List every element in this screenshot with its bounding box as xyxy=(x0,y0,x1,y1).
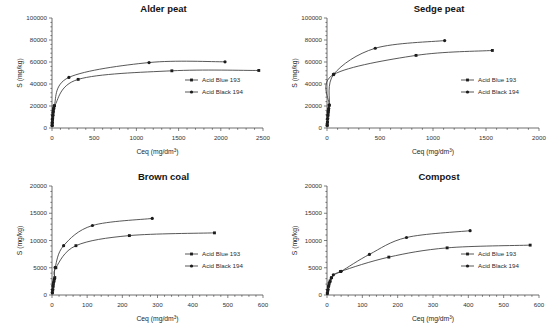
chart-title: Sedge peat xyxy=(414,3,466,14)
legend-label-1: Acid Blue 193 xyxy=(478,76,517,83)
data-point-circle-marker xyxy=(327,110,330,113)
x-tick-label: 2000 xyxy=(532,134,546,141)
data-point-circle-marker xyxy=(326,124,329,127)
data-point-circle-marker xyxy=(374,47,377,50)
y-tick-label: 10000 xyxy=(305,237,323,244)
legend-square-marker xyxy=(466,79,469,82)
data-point-square-marker xyxy=(128,234,131,237)
data-point-circle-marker xyxy=(51,121,54,124)
data-point-circle-marker xyxy=(51,117,54,120)
data-point-circle-marker xyxy=(332,72,335,75)
x-tick-label: 2500 xyxy=(256,134,270,141)
x-tick-label: 500 xyxy=(499,301,510,308)
data-point-circle-marker xyxy=(91,224,94,227)
y-tick-label: 5000 xyxy=(33,264,47,271)
x-tick-label: 200 xyxy=(117,301,128,308)
legend-circle-marker xyxy=(190,90,193,93)
data-point-circle-marker xyxy=(332,273,335,276)
y-tick-label: 15000 xyxy=(30,209,48,216)
data-point-circle-marker xyxy=(327,107,330,110)
chart-panel-brown-coal: Brown coal050001000015000200000100200300… xyxy=(0,168,275,335)
data-point-circle-marker xyxy=(52,280,55,283)
data-point-circle-marker xyxy=(330,276,333,279)
y-axis-label: S (mg/kg) xyxy=(16,58,24,87)
data-point-square-marker xyxy=(257,69,260,72)
chart-panel-compost: Compost050001000015000200000100200300400… xyxy=(275,168,551,335)
series-curve-2 xyxy=(52,218,152,292)
x-tick-label: 500 xyxy=(223,301,234,308)
data-point-circle-marker xyxy=(340,270,343,273)
legend-square-marker xyxy=(190,253,193,256)
x-tick-label: 1000 xyxy=(130,134,144,141)
y-tick-label: 0 xyxy=(319,124,323,131)
y-tick-label: 20000 xyxy=(305,182,323,189)
chart-title: Brown coal xyxy=(138,171,189,182)
data-point-square-marker xyxy=(387,256,390,259)
data-point-circle-marker xyxy=(54,266,57,269)
data-point-square-marker xyxy=(77,78,80,81)
data-point-circle-marker xyxy=(67,76,70,79)
x-axis-label: Ceq (mg/dm3) xyxy=(412,315,454,324)
data-point-square-marker xyxy=(170,69,173,72)
data-point-circle-marker xyxy=(62,244,65,247)
data-point-circle-marker xyxy=(326,291,329,294)
adsorption-isotherm-figure: Alder peat020000400006000080000100000050… xyxy=(0,0,551,335)
y-tick-label: 0 xyxy=(44,124,48,131)
x-tick-label: 500 xyxy=(375,134,386,141)
y-tick-label: 100000 xyxy=(301,14,322,21)
legend-square-marker xyxy=(190,79,193,82)
x-tick-label: 1500 xyxy=(479,134,493,141)
data-point-circle-marker xyxy=(443,39,446,42)
data-point-circle-marker xyxy=(51,288,54,291)
data-point-square-marker xyxy=(491,49,494,52)
x-axis-label: Ceq (mg/dm3) xyxy=(412,148,454,157)
data-point-circle-marker xyxy=(405,236,408,239)
x-tick-label: 300 xyxy=(152,301,163,308)
series-curve-2 xyxy=(52,61,225,125)
x-tick-label: 0 xyxy=(50,134,54,141)
legend-circle-marker xyxy=(190,264,193,267)
series-curve-1 xyxy=(52,233,214,293)
data-point-circle-marker xyxy=(52,104,55,107)
legend-label-1: Acid Blue 193 xyxy=(478,250,517,257)
y-tick-label: 0 xyxy=(319,291,323,298)
y-tick-label: 100000 xyxy=(26,14,47,21)
x-tick-label: 400 xyxy=(463,301,474,308)
y-tick-label: 40000 xyxy=(305,80,323,87)
x-tick-label: 0 xyxy=(325,134,329,141)
data-point-circle-marker xyxy=(147,61,150,64)
data-point-circle-marker xyxy=(328,280,331,283)
data-point-circle-marker xyxy=(368,253,371,256)
legend-square-marker xyxy=(466,253,469,256)
y-tick-label: 5000 xyxy=(308,264,322,271)
data-point-circle-marker xyxy=(51,114,54,117)
y-tick-label: 15000 xyxy=(305,209,323,216)
data-point-circle-marker xyxy=(326,117,329,120)
data-point-square-marker xyxy=(446,246,449,249)
data-point-square-marker xyxy=(529,244,532,247)
x-tick-label: 1000 xyxy=(426,134,440,141)
data-point-square-marker xyxy=(74,244,77,247)
data-point-square-marker xyxy=(415,54,418,57)
y-tick-label: 20000 xyxy=(305,102,323,109)
x-tick-label: 500 xyxy=(89,134,100,141)
y-tick-label: 20000 xyxy=(30,102,48,109)
y-tick-label: 20000 xyxy=(30,182,48,189)
x-tick-label: 600 xyxy=(534,301,545,308)
y-axis-label: S (mg/kg) xyxy=(291,226,299,255)
data-point-circle-marker xyxy=(53,277,56,280)
data-point-circle-marker xyxy=(51,124,54,127)
x-tick-label: 0 xyxy=(50,301,54,308)
y-tick-label: 60000 xyxy=(305,58,323,65)
legend-circle-marker xyxy=(466,90,469,93)
data-point-circle-marker xyxy=(223,60,226,63)
y-tick-label: 60000 xyxy=(30,58,48,65)
series-curve-2 xyxy=(327,231,470,293)
data-point-circle-marker xyxy=(51,284,54,287)
x-tick-label: 100 xyxy=(82,301,93,308)
chart-panel-sedge-peat: Sedge peat020000400006000080000100000050… xyxy=(275,0,551,168)
series-curve-2 xyxy=(327,41,444,126)
y-tick-label: 80000 xyxy=(30,36,48,43)
x-tick-label: 100 xyxy=(357,301,368,308)
y-tick-label: 0 xyxy=(44,291,48,298)
